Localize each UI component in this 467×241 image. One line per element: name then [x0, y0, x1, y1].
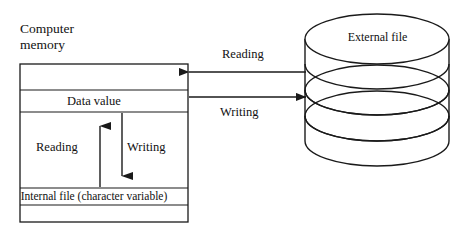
disc-1-front-arc — [305, 64, 449, 89]
external-file-label: External file — [305, 30, 450, 44]
internal-file-cell-label: Internal file (character variable) — [0, 190, 188, 204]
reading-arrow-label: Reading — [222, 47, 264, 62]
disc-3-front-arc — [305, 116, 449, 141]
data-value-cell-label: Data value — [0, 94, 188, 109]
writing-arrow-label: Writing — [220, 105, 258, 120]
transfer-arrows — [189, 72, 306, 97]
disc-2-front-arc — [305, 90, 449, 115]
computer-memory-title: Computer memory — [20, 21, 74, 53]
disc-3-top-ellipse — [305, 91, 449, 141]
memory-title-line-2: memory — [20, 37, 74, 53]
cylinder-bottom-arc — [305, 141, 449, 166]
diagram-canvas: Computer memory Data value Reading Writi… — [0, 0, 467, 241]
memory-title-line-1: Computer — [20, 21, 74, 37]
memory-reading-label: Reading — [36, 140, 78, 155]
disc-2-top-ellipse — [305, 65, 449, 115]
memory-writing-label: Writing — [127, 140, 165, 155]
